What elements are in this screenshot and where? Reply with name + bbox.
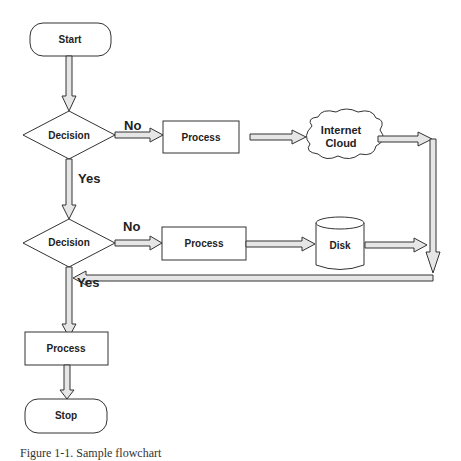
- process1-label: Process: [182, 132, 221, 143]
- edge-label-d1-yes: Yes: [78, 171, 100, 186]
- process3-label: Process: [47, 343, 86, 354]
- edge-label-d2-yes: Yes: [77, 275, 99, 290]
- decision2-label: Decision: [48, 237, 90, 248]
- stop-label: Stop: [55, 410, 77, 421]
- arrow-process1-to-cloud: [250, 130, 306, 144]
- arrow-disk-to-merge: [365, 238, 427, 252]
- process2-label: Process: [185, 238, 224, 249]
- figure-caption: Figure 1-1. Sample flowchart: [20, 446, 161, 461]
- disk-label: Disk: [329, 240, 351, 251]
- arrow-decision1-yes: [62, 159, 76, 219]
- decision1-label: Decision: [48, 130, 90, 141]
- arrow-start-to-decision1: [62, 56, 76, 111]
- merge-line-right: [426, 139, 440, 273]
- arrow-process2-to-disk: [246, 237, 315, 251]
- start-label: Start: [59, 34, 82, 45]
- edge-label-d1-no: No: [124, 118, 141, 133]
- arrow-cloud-to-merge: [378, 132, 432, 146]
- cloud-label-line2: Cloud: [325, 137, 356, 149]
- arrow-process3-to-stop: [60, 365, 74, 399]
- edge-label-d2-no: No: [123, 219, 140, 234]
- arrow-merge-return: [73, 271, 433, 285]
- arrow-decision2-no: [115, 236, 162, 250]
- cloud-label-line1: Internet: [321, 124, 362, 136]
